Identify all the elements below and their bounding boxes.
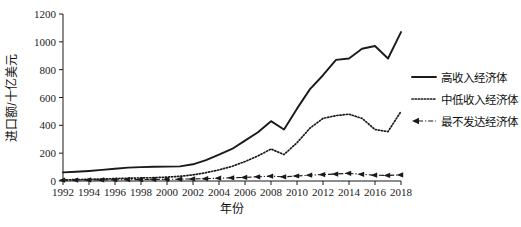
series-line-1	[63, 32, 401, 172]
series-marker	[85, 177, 92, 182]
series-marker	[345, 171, 352, 176]
series-marker	[397, 172, 404, 177]
series-marker	[98, 177, 105, 182]
legend-arrow-marker	[412, 118, 419, 124]
legend-item-label: 高收入经济体	[441, 71, 508, 84]
series-marker	[371, 173, 378, 178]
axis-lines	[63, 14, 401, 181]
series-marker	[59, 178, 66, 183]
x-tick-label: 2014	[338, 186, 361, 198]
x-tick-label: 1994	[78, 186, 101, 198]
legend-item[interactable]: 最不发达经济体	[412, 115, 519, 128]
x-axis-label: 年份	[220, 202, 244, 216]
x-tick-label: 2018	[390, 186, 413, 198]
x-tick-label: 2012	[312, 186, 334, 198]
y-tick-label: 400	[40, 119, 57, 131]
y-axis-label: 进口额/十亿美元	[4, 54, 19, 141]
series-marker	[72, 177, 79, 182]
legend-item[interactable]: 高收入经济体	[412, 71, 508, 84]
x-tick-label: 1992	[52, 186, 74, 198]
x-tick-label: 2000	[156, 186, 179, 198]
y-tick-label: 600	[40, 92, 57, 104]
x-axis-ticks: 1992199419961998200020022004200620082010…	[52, 181, 413, 198]
x-tick-label: 1996	[104, 186, 127, 198]
data-series	[59, 32, 404, 183]
x-tick-label: 2006	[234, 186, 257, 198]
series-marker	[306, 173, 313, 178]
series-marker	[254, 174, 261, 179]
y-axis-ticks: 020040060080010001200	[34, 8, 63, 187]
series-marker	[241, 175, 248, 180]
series-marker	[358, 172, 365, 177]
series-marker	[319, 172, 326, 177]
legend-item[interactable]: 中低收入经济体	[412, 93, 519, 106]
y-tick-label: 800	[40, 64, 57, 76]
y-tick-label: 1000	[34, 36, 57, 48]
y-tick-label: 1200	[34, 8, 57, 20]
legend-item-label: 最不发达经济体	[441, 115, 519, 128]
series-marker	[293, 173, 300, 178]
chart-container: 020040060080010001200 199219941996199820…	[0, 0, 521, 227]
x-tick-label: 2002	[182, 186, 204, 198]
x-tick-label: 2016	[364, 186, 387, 198]
x-tick-label: 2004	[208, 186, 231, 198]
series-marker	[202, 176, 209, 181]
series-marker	[228, 175, 235, 180]
series-marker	[267, 174, 274, 179]
axes	[63, 14, 401, 181]
x-tick-label: 1998	[130, 186, 153, 198]
x-tick-label: 2010	[286, 186, 309, 198]
series-marker	[280, 174, 287, 179]
legend-item-label: 中低收入经济体	[441, 93, 519, 106]
chart-legend: 高收入经济体中低收入经济体最不发达经济体	[412, 71, 519, 128]
series-marker	[384, 173, 391, 178]
x-tick-label: 2008	[260, 186, 283, 198]
line-chart: 020040060080010001200 199219941996199820…	[0, 0, 521, 227]
series-marker	[215, 176, 222, 181]
y-tick-label: 200	[40, 147, 57, 159]
series-marker	[332, 171, 339, 176]
